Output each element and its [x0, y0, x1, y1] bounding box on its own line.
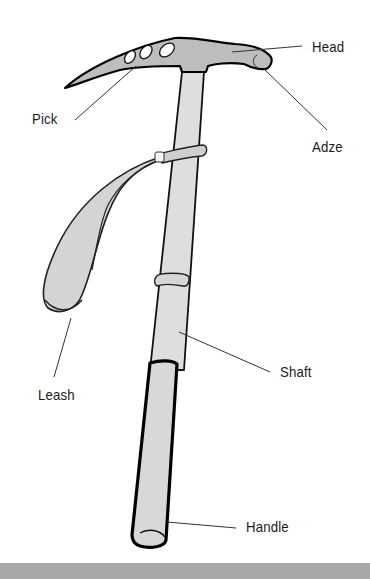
leash-drawing [43, 157, 160, 312]
ice-axe-illustration [0, 0, 370, 579]
label-shaft: Shaft [280, 363, 312, 380]
label-pick: Pick [32, 110, 58, 127]
label-leash: Leash [38, 386, 75, 403]
handle-drawing [132, 361, 177, 547]
leader-adze [264, 69, 327, 130]
leader-handle [167, 522, 236, 528]
label-head: Head [312, 38, 344, 55]
leader-shaft [179, 332, 270, 372]
label-adze: Adze [312, 138, 343, 155]
shaft-drawing [150, 72, 207, 370]
footer-bar [0, 563, 370, 579]
leader-leash [54, 318, 71, 377]
label-handle: Handle [246, 518, 289, 535]
head-drawing [65, 38, 272, 88]
